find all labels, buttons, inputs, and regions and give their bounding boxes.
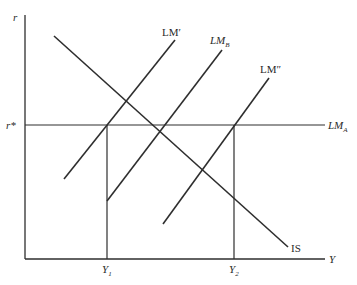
curve-label-lm-b: LMB bbox=[209, 34, 230, 49]
x-axis-label: Y bbox=[329, 253, 337, 265]
islm-diagram: r Y r* Y1Y2 ISLM′LMBLM″LMA bbox=[0, 0, 357, 285]
curve-label-lm-a: LMA bbox=[327, 119, 348, 134]
y-axis-label: r bbox=[13, 11, 18, 23]
curve-label-lm-prime: LM′ bbox=[162, 26, 181, 38]
tick-label-y1: Y1 bbox=[102, 263, 112, 278]
tick-label-y2: Y2 bbox=[229, 263, 239, 278]
curve-label-lm-double-prime: LM″ bbox=[260, 63, 281, 75]
curve-lm-double-prime bbox=[163, 78, 269, 224]
curve-is bbox=[54, 36, 288, 247]
curve-label-is: IS bbox=[291, 242, 301, 254]
curves: ISLM′LMBLM″LMA bbox=[25, 26, 348, 254]
r-star-label: r* bbox=[6, 119, 16, 131]
